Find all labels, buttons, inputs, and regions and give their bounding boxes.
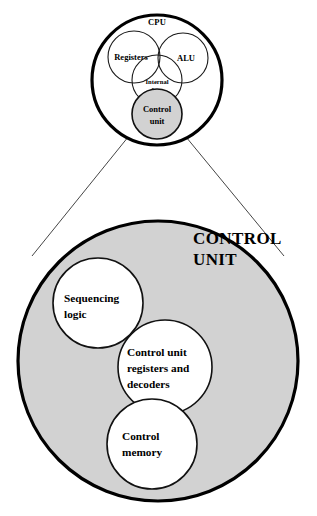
sequencing-logic-label-line1: Sequencing — [64, 292, 120, 304]
control-unit-title-line2: UNIT — [193, 250, 237, 269]
cpu-label: CPU — [148, 17, 166, 27]
control-unit-title-line1: CONTROL — [193, 229, 282, 248]
control-memory-circle — [107, 399, 197, 489]
control-memory-label-line1: Control — [122, 430, 159, 442]
control-memory-label-line2: memory — [122, 446, 162, 458]
cu-registers-decoders-label-line2: registers and — [127, 362, 190, 374]
cpu-control-unit-label-line1: Control — [143, 104, 172, 114]
cpu-control-unit-circle — [132, 89, 182, 139]
registers-label: Registers — [114, 52, 148, 62]
internal-bus-label-line1: Internal — [145, 78, 168, 85]
control-unit-diagram: CPU Registers ALU Internal bus Control u… — [0, 0, 317, 516]
cu-registers-decoders-label-line1: Control unit — [127, 346, 187, 358]
sequencing-logic-label-line2: logic — [64, 308, 87, 320]
cpu-overview-group: CPU Registers ALU Internal bus Control u… — [92, 15, 222, 145]
cpu-control-unit-label-line2: unit — [150, 116, 165, 126]
control-unit-detail-group: CONTROL UNIT Sequencing logic Control un… — [18, 221, 298, 501]
diagram-canvas: CPU Registers ALU Internal bus Control u… — [0, 0, 317, 516]
cu-registers-decoders-label-line3: decoders — [127, 378, 170, 390]
alu-label: ALU — [177, 53, 195, 63]
